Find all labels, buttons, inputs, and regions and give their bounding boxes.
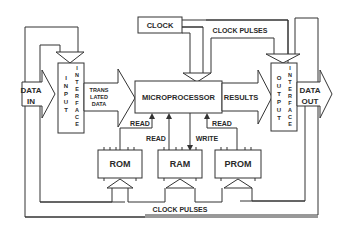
svg-text:INTERFACE: INTERFACE xyxy=(75,65,79,127)
memory-bus-lines: READ READ WRITE READ xyxy=(120,113,237,151)
svg-text:CLOCK PULSES: CLOCK PULSES xyxy=(213,27,268,34)
ram-box: RAM xyxy=(158,147,202,181)
svg-text:DATA: DATA xyxy=(92,101,106,107)
svg-text:RAM: RAM xyxy=(170,159,191,169)
svg-text:OUT: OUT xyxy=(302,97,319,106)
svg-text:READ: READ xyxy=(146,135,166,142)
clock-box: CLOCK xyxy=(138,17,182,33)
svg-text:RESULTS: RESULTS xyxy=(224,93,258,102)
svg-text:INTERFACE: INTERFACE xyxy=(288,65,292,127)
prom-box: PROM xyxy=(215,147,261,181)
svg-text:PROM: PROM xyxy=(225,159,252,169)
data-in-arrow: DATA IN xyxy=(20,70,55,118)
results-arrow: RESULTS xyxy=(222,70,272,124)
svg-text:ROM: ROM xyxy=(110,159,131,169)
data-out-arrow: DATA OUT xyxy=(297,70,332,118)
clock-pulses-bottom-label: CLOCK PULSES xyxy=(153,206,208,213)
output-interface-box: OUTPUT INTERFACE xyxy=(271,63,297,131)
translated-data-arrow: TRANS LATED DATA xyxy=(84,69,135,127)
microprocessor-box: MICROPROCESSOR xyxy=(135,81,222,113)
memory-clock-arrows xyxy=(40,179,305,202)
clock-feed-line xyxy=(182,27,203,73)
svg-text:READ: READ xyxy=(212,120,232,127)
data-in-label-2: IN xyxy=(27,97,35,106)
microprocessor-label: MICROPROCESSOR xyxy=(142,93,216,102)
clock-to-cpu-arrow xyxy=(182,20,288,27)
rom-box: ROM xyxy=(98,147,142,181)
svg-text:LATED: LATED xyxy=(90,94,108,100)
svg-text:READ: READ xyxy=(130,120,150,127)
svg-text:DATA: DATA xyxy=(299,86,320,95)
clock-label: CLOCK xyxy=(147,21,174,30)
input-clock-arrow xyxy=(56,52,84,63)
svg-text:WRITE: WRITE xyxy=(196,135,219,142)
microprocessor-block-diagram: DATA IN INPUT INTERFACE TRANS LATED DATA… xyxy=(0,0,343,226)
input-interface-box: INPUT INTERFACE xyxy=(58,63,84,133)
svg-text:TRANS: TRANS xyxy=(90,87,109,93)
data-in-label-1: DATA xyxy=(20,86,41,95)
